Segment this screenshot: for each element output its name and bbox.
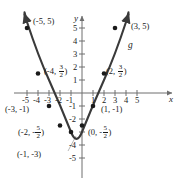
point-label--2--5-2: (-2, -52): [18, 125, 44, 140]
point-label-1--1: (1, -1): [101, 105, 122, 114]
y-axis-label: y: [74, 14, 78, 23]
point-label--1--3: (-1, -3): [17, 150, 41, 159]
y-tick-label-2: 2: [73, 63, 77, 72]
fraction-5-2: 52: [103, 125, 109, 140]
fraction-3-2: 32: [59, 64, 65, 79]
point-label-prefix: (-4,: [44, 66, 58, 76]
point-label-suffix: ): [64, 66, 67, 76]
point-label-2-3-2: (2, 32): [106, 64, 126, 79]
point-marker: [58, 123, 63, 128]
point-label-suffix: ): [124, 66, 127, 76]
y-tick-label--2: -2: [69, 115, 76, 124]
point-label-prefix: (0, -: [88, 127, 102, 137]
point-label--4-3-2: (-4, 32): [44, 64, 67, 79]
y-tick-label-4: 4: [73, 37, 77, 46]
y-tick-label-1: 1: [73, 76, 77, 85]
x-tick-label-1: 1: [91, 96, 95, 105]
x-tick-label-4: 4: [124, 96, 128, 105]
x-tick-label-5: 5: [135, 96, 139, 105]
x-tick-label--3: -3: [44, 96, 51, 105]
fraction-5-2: 52: [35, 125, 41, 140]
y-axis: [79, 16, 85, 178]
curve-label-g: g: [128, 41, 133, 51]
point-label-prefix: (2,: [106, 66, 117, 76]
point-label-3-5: (3, 5): [131, 22, 149, 31]
point-label-suffix: ): [41, 127, 44, 137]
curve-arrow-right: [126, 14, 129, 23]
point-marker: [69, 130, 74, 135]
curve-arrow-left: [24, 14, 27, 23]
point-label-prefix: (-2, -: [18, 127, 35, 137]
x-axis-label: x: [169, 95, 173, 104]
x-tick-label--4: -4: [33, 96, 40, 105]
fraction-3-2: 32: [118, 64, 124, 79]
y-tick-label-5: 5: [73, 24, 77, 33]
point-marker: [80, 123, 85, 128]
point-label-0--5-2: (0, -52): [88, 125, 111, 140]
parabola-graph-figure: -5 -4 -3 -2 -1 1 2 3 4 5 5 4 3 2 1 -1 -2…: [0, 0, 181, 184]
x-tick-label--2: -2: [55, 96, 62, 105]
point-label--3--1: (-3, -1): [5, 105, 29, 114]
y-tick-label--4: -4: [69, 141, 76, 150]
point-label-suffix: ): [108, 127, 111, 137]
point-marker: [36, 71, 41, 76]
point-label--5-5: (-5, 5): [33, 17, 54, 26]
y-tick-label-3: 3: [73, 50, 77, 59]
point-marker: [25, 26, 30, 31]
y-tick-label--5: -5: [69, 154, 76, 163]
y-tick-label--1: -1: [69, 102, 76, 111]
point-marker: [113, 26, 118, 31]
